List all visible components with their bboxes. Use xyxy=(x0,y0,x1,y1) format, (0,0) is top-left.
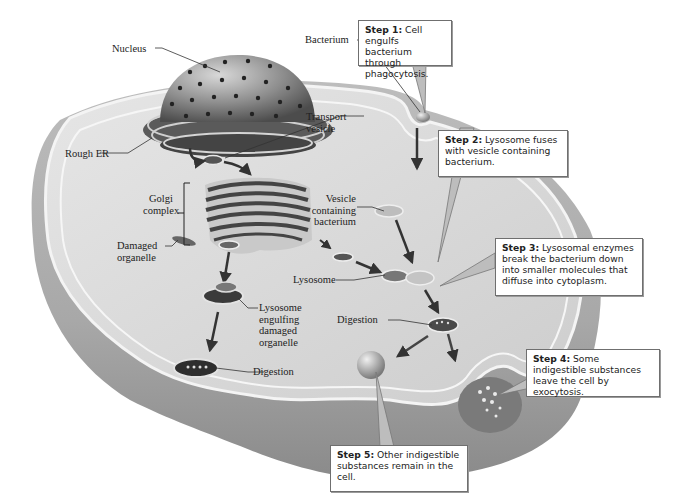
label-lysosome-engulfing: Lysosome engulfing damaged organelle xyxy=(259,302,302,348)
transport-vesicle xyxy=(203,156,223,165)
callout-step-3: Step 3: Lysosomal enzymes break the bact… xyxy=(495,238,643,296)
digestion-vesicle-left xyxy=(174,359,218,377)
bacterium xyxy=(416,112,430,122)
callout-step-2: Step 2: Lysosome fuses with vesicle cont… xyxy=(438,130,568,177)
residual-body xyxy=(357,351,385,379)
label-bacterium: Bacterium xyxy=(305,34,349,46)
label-rough-er: Rough ER xyxy=(65,148,109,160)
exocytosis-pit xyxy=(458,377,522,433)
label-golgi-complex: Golgi complex xyxy=(143,193,179,216)
nucleus xyxy=(160,55,315,122)
label-transport-vesicle: Transport vesicle xyxy=(306,111,346,134)
callout-step-1: Step 1: Cell engulfs bacterium through p… xyxy=(358,20,452,66)
callout-step-4: Step 4: Some indigestible substances lea… xyxy=(526,349,660,397)
label-digestion-right: Digestion xyxy=(337,314,378,326)
vesicle-containing-bacterium xyxy=(375,205,403,217)
golgi-lysosome-left xyxy=(219,241,239,249)
label-damaged-organelle: Damaged organelle xyxy=(117,240,157,263)
digestion-vesicle-right xyxy=(428,318,458,332)
label-lysosome: Lysosome xyxy=(293,274,336,286)
label-nucleus: Nucleus xyxy=(112,43,146,55)
label-vesicle-containing-bacterium: Vesicle containing bacterium xyxy=(300,193,356,228)
golgi-lysosome-right xyxy=(333,253,353,261)
callout-step-5: Step 5: Other indigestible substances re… xyxy=(330,445,468,492)
label-digestion-left: Digestion xyxy=(253,366,294,378)
